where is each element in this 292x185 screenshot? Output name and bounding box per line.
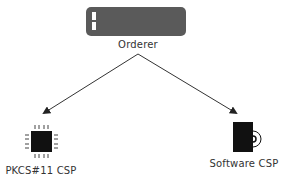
server-rack-icon — [86, 7, 186, 36]
node-label-orderer: Orderer — [118, 39, 158, 50]
edge-orderer-to-pkcs11 — [44, 54, 138, 113]
hardware-chip-icon — [25, 125, 58, 158]
node-label-pkcs11-csp: PKCS#11 CSP — [5, 165, 76, 176]
software-package-disc-icon — [233, 122, 261, 152]
node-label-software-csp: Software CSP — [209, 158, 278, 169]
edge-orderer-to-software — [138, 54, 236, 113]
